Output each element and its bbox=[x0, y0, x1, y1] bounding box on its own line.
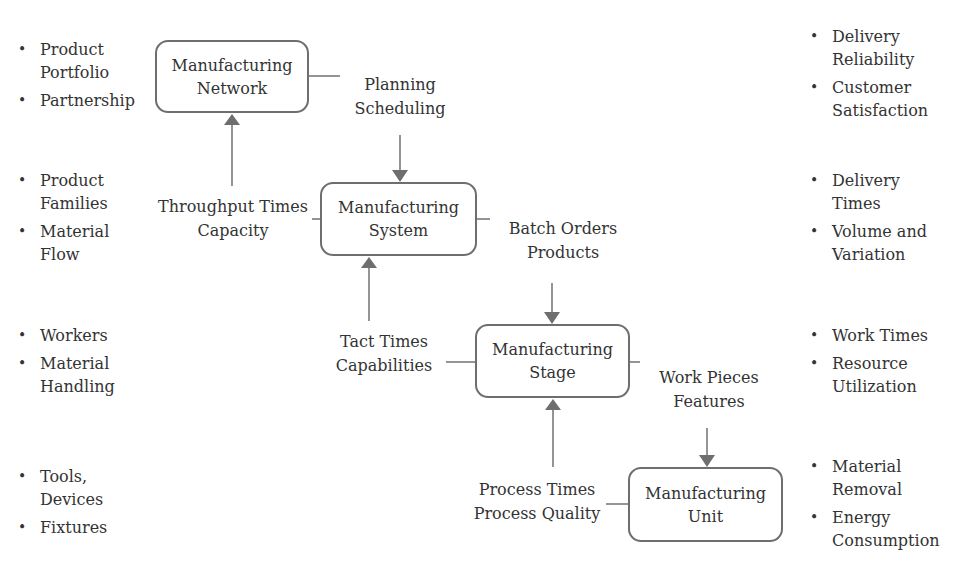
manufacturing-unit-box: Manufacturing Unit bbox=[628, 467, 783, 542]
list-item: Energy Consumption bbox=[805, 506, 940, 552]
list-item: Workers bbox=[13, 324, 115, 347]
list-item: Product Portfolio bbox=[13, 38, 135, 84]
tact-capabilities-label: Tact Times Capabilities bbox=[326, 330, 442, 378]
throughput-capacity-label: Throughput Times Capacity bbox=[152, 195, 314, 243]
list-item: Delivery Reliability bbox=[805, 25, 928, 71]
list-item: Volume and Variation bbox=[805, 220, 927, 266]
box-label-line1: Manufacturing bbox=[338, 196, 459, 219]
box-label-line2: System bbox=[369, 219, 428, 242]
list-item: Material Removal bbox=[805, 455, 940, 501]
list-item: Tools, Devices bbox=[13, 465, 107, 511]
network-right-bullets: Delivery Reliability Customer Satisfacti… bbox=[805, 25, 928, 127]
list-item: Material Flow bbox=[13, 220, 109, 266]
network-left-bullets: Product Portfolio Partnership bbox=[13, 38, 135, 117]
box-label-line2: Stage bbox=[529, 361, 576, 384]
system-left-bullets: Product Families Material Flow bbox=[13, 169, 109, 271]
batch-orders-products-label: Batch Orders Products bbox=[498, 217, 628, 265]
box-label-line1: Manufacturing bbox=[492, 338, 613, 361]
unit-left-bullets: Tools, Devices Fixtures bbox=[13, 465, 107, 544]
list-item: Delivery Times bbox=[805, 169, 927, 215]
manufacturing-system-box: Manufacturing System bbox=[320, 182, 477, 256]
system-right-bullets: Delivery Times Volume and Variation bbox=[805, 169, 927, 271]
list-item: Customer Satisfaction bbox=[805, 76, 928, 122]
planning-scheduling-label: Planning Scheduling bbox=[340, 73, 460, 121]
list-item: Work Times bbox=[805, 324, 928, 347]
stage-right-bullets: Work Times Resource Utilization bbox=[805, 324, 928, 403]
box-label-line2: Unit bbox=[688, 505, 723, 528]
list-item: Resource Utilization bbox=[805, 352, 928, 398]
manufacturing-hierarchy-diagram: Manufacturing Network Manufacturing Syst… bbox=[0, 0, 971, 568]
list-item: Partnership bbox=[13, 89, 135, 112]
list-item: Product Families bbox=[13, 169, 109, 215]
work-pieces-features-label: Work Pieces Features bbox=[650, 366, 768, 414]
box-label-line2: Network bbox=[197, 77, 268, 100]
box-label-line1: Manufacturing bbox=[645, 482, 766, 505]
list-item: Fixtures bbox=[13, 516, 107, 539]
process-times-quality-label: Process Times Process Quality bbox=[466, 478, 608, 526]
manufacturing-stage-box: Manufacturing Stage bbox=[475, 324, 630, 398]
list-item: Material Handling bbox=[13, 352, 115, 398]
stage-left-bullets: Workers Material Handling bbox=[13, 324, 115, 403]
unit-right-bullets: Material Removal Energy Consumption bbox=[805, 455, 940, 557]
manufacturing-network-box: Manufacturing Network bbox=[155, 40, 309, 113]
box-label-line1: Manufacturing bbox=[172, 54, 293, 77]
